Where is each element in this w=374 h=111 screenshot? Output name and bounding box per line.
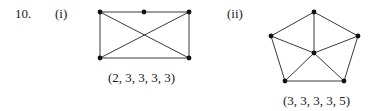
graph-vertex <box>187 10 192 15</box>
graph-edge <box>314 12 358 36</box>
graph-vertex <box>342 79 347 84</box>
graph-edge <box>271 36 314 53</box>
graph-vertex <box>98 56 103 61</box>
graph-vertex <box>98 10 103 15</box>
graph-vertex <box>283 79 288 84</box>
graph-ii <box>269 10 361 84</box>
graph-edge <box>314 53 344 81</box>
graph-i <box>98 10 192 61</box>
graph-vertex <box>187 56 192 61</box>
graph-vertex <box>142 10 147 15</box>
graph-edge <box>285 53 314 81</box>
graph-edge <box>314 36 358 53</box>
graph-edge <box>271 36 285 81</box>
graph-vertex <box>312 10 317 15</box>
graph-vertex <box>312 51 317 56</box>
graph-vertex <box>269 34 274 39</box>
graph-vertex <box>356 34 361 39</box>
graph-edge <box>271 12 314 36</box>
graph-edge <box>344 36 358 81</box>
graph-figures <box>0 0 374 111</box>
